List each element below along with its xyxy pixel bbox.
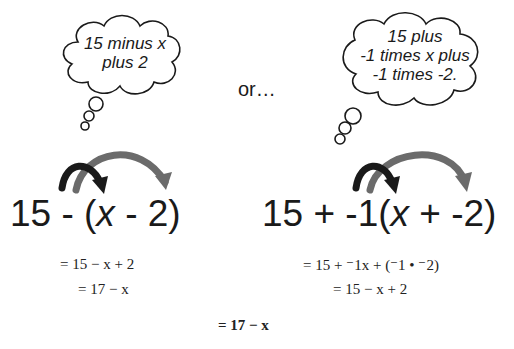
thought-line: -1 times x plus <box>350 46 480 65</box>
thought-line: -1 times -2. <box>350 65 480 84</box>
final-result: = 17 − x <box>218 317 269 334</box>
expr-part: + -2) <box>409 193 496 234</box>
expr-variable: x <box>391 193 410 234</box>
thought-line: plus 2 <box>70 53 180 72</box>
expression-right: 15 + -1(x + -2) <box>262 194 496 234</box>
left-step-1: = 15 − x + 2 <box>60 256 134 273</box>
thought-text-left: 15 minus x plus 2 <box>70 34 180 72</box>
right-step-2: = 15 − x + 2 <box>333 281 407 298</box>
thought-cloud-left <box>63 16 179 131</box>
thought-line: 15 minus x <box>70 34 180 53</box>
left-step-2: = 17 − x <box>78 281 129 298</box>
thought-text-right: 15 plus -1 times x plus -1 times -2. <box>350 27 480 84</box>
distribute-arrows-left <box>62 155 172 194</box>
expr-part: 15 - ( <box>10 193 96 234</box>
expression-left: 15 - (x - 2) <box>10 194 181 234</box>
distribute-arrows-right <box>356 155 472 194</box>
expr-part: - 2) <box>115 193 181 234</box>
expr-part: 15 + -1( <box>262 193 391 234</box>
expr-variable: x <box>96 193 115 234</box>
thought-line: 15 plus <box>350 27 480 46</box>
right-step-1: = 15 + ⁻1x + (⁻1 • ⁻2) <box>303 256 439 274</box>
or-connector: or… <box>238 78 276 101</box>
